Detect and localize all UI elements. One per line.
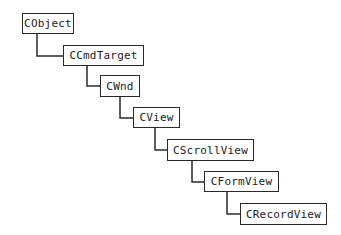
node-cview: CView — [133, 107, 180, 128]
node-label: CView — [139, 111, 173, 124]
node-label: CObject — [24, 17, 72, 30]
edge-ccmdtarget-cwnd — [87, 66, 100, 86]
node-label: CFormView — [211, 175, 272, 188]
node-cformview: CFormView — [204, 171, 279, 192]
edge-cview-cscrollview — [155, 128, 167, 150]
node-label: CWnd — [106, 80, 133, 93]
node-crecordview: CRecordView — [240, 203, 327, 225]
class-hierarchy-diagram: CObject CCmdTarget CWnd CView CScrollVie… — [0, 0, 341, 235]
node-cobject: CObject — [22, 13, 74, 34]
node-label: CCmdTarget — [69, 49, 137, 62]
edge-cwnd-cview — [120, 97, 133, 118]
node-cscrollview: CScrollView — [167, 139, 254, 161]
edge-cscrollview-cformview — [192, 161, 204, 182]
node-label: CScrollView — [173, 144, 248, 157]
node-ccmdtarget: CCmdTarget — [63, 45, 144, 66]
edge-cobject-ccmdtarget — [37, 33, 63, 56]
node-cwnd: CWnd — [100, 75, 140, 97]
edge-cformview-crecordview — [227, 192, 240, 214]
node-label: CRecordView — [246, 208, 321, 221]
